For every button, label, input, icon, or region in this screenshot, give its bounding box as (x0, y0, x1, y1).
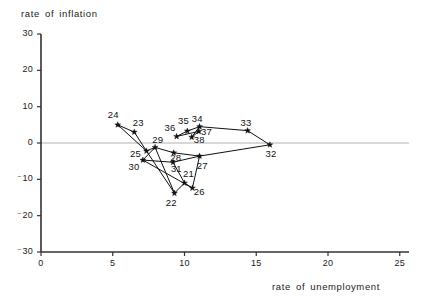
point-label-28: 28 (170, 152, 181, 163)
marker-35 (184, 128, 190, 134)
point-label-38: 38 (194, 134, 205, 145)
y-tick-label: 0 (0, 137, 33, 147)
point-label-25: 25 (130, 148, 141, 159)
path-segment-24-25 (118, 125, 147, 151)
y-tick-label: 30 (0, 28, 33, 38)
x-tick-label: 0 (21, 258, 61, 268)
point-label-29: 29 (152, 134, 163, 145)
point-label-33: 33 (240, 117, 251, 128)
path-segment-30-31 (143, 160, 173, 162)
point-label-22: 22 (166, 197, 177, 208)
x-tick-label: 5 (93, 258, 133, 268)
marker-36 (174, 133, 180, 139)
point-label-35: 35 (178, 115, 189, 126)
point-label-30: 30 (129, 161, 140, 172)
x-tick-label: 25 (380, 258, 420, 268)
point-label-36: 36 (164, 122, 175, 133)
y-tick-label: 10 (0, 101, 33, 111)
point-label-31: 31 (171, 163, 182, 174)
inflation-unemployment-scatter-figure: rate of inflation rate of unemployment 3… (0, 0, 429, 306)
point-label-26: 26 (194, 186, 205, 197)
point-label-21: 21 (183, 168, 194, 179)
path-segment-27-32 (200, 145, 270, 156)
point-label-27: 27 (197, 160, 208, 171)
y-tick-label: 20 (0, 64, 33, 74)
y-tick-label: ⁻30 (0, 246, 33, 256)
x-tick-label: 15 (236, 258, 276, 268)
x-tick-label: 10 (165, 258, 205, 268)
point-label-23: 23 (133, 117, 144, 128)
point-label-34: 34 (192, 113, 203, 124)
point-label-32: 32 (266, 148, 277, 159)
plot-canvas (0, 0, 429, 306)
x-axis-title: rate of unemployment (272, 281, 380, 292)
x-tick-label: 20 (308, 258, 348, 268)
y-tick-label: ⁻20 (0, 210, 33, 220)
y-tick-label: ⁻10 (0, 173, 33, 183)
marker-23 (131, 129, 137, 135)
point-label-24: 24 (108, 109, 119, 120)
y-axis-title: rate of inflation (21, 8, 98, 19)
axis-ticks (37, 34, 400, 256)
